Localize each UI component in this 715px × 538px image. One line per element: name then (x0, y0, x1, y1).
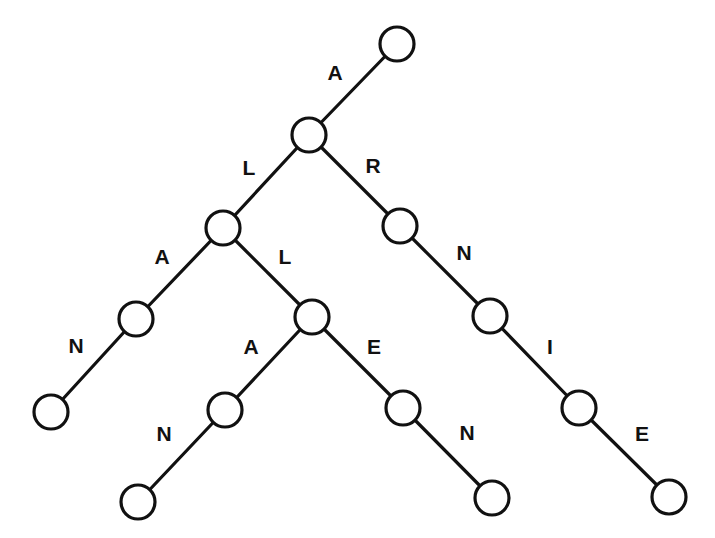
edge-label: A (154, 245, 169, 268)
edge-ALL-ALLE (312, 317, 403, 408)
edge-ALLA-ALLAN (138, 410, 225, 502)
trie-node-ALLEN (475, 481, 509, 515)
edge-ALL-ALLA (225, 317, 312, 410)
edge-label: N (156, 422, 171, 445)
edge-ALLE-ALLEN (403, 408, 492, 498)
edge-label: I (547, 335, 553, 358)
trie-node-A (292, 118, 326, 152)
label-layer: ALRALNNAEINNE (68, 61, 649, 445)
node-layer (34, 27, 686, 519)
edge-label: E (635, 422, 649, 445)
edge-A-AL (223, 135, 309, 228)
trie-node-ALL (295, 300, 329, 334)
trie-node-root (380, 27, 414, 61)
edge-label: L (279, 245, 292, 268)
edge-ARNI-ARNIE (579, 408, 669, 497)
edge-AL-ALA (136, 228, 223, 319)
trie-diagram: ALRALNNAEINNE (0, 0, 715, 538)
trie-node-AL (206, 211, 240, 245)
edge-A-AR (309, 135, 400, 226)
edge-label: N (459, 421, 474, 444)
edge-label: L (243, 156, 256, 179)
edge-ALA-ALAN (51, 319, 136, 412)
edge-layer (51, 44, 669, 502)
edge-label: N (456, 241, 471, 264)
trie-node-ARNI (562, 391, 596, 425)
edge-label: E (367, 335, 381, 358)
edge-label: A (327, 61, 342, 84)
edge-AL-ALL (223, 228, 312, 317)
trie-node-ALAN (34, 395, 68, 429)
edge-label: A (243, 335, 258, 358)
trie-node-ALLA (208, 393, 242, 427)
trie-node-ALLE (386, 391, 420, 425)
trie-node-ARN (473, 299, 507, 333)
edge-label: N (68, 334, 83, 357)
trie-node-ALA (119, 302, 153, 336)
trie-node-ARNIE (652, 480, 686, 514)
edge-label: R (365, 154, 380, 177)
trie-node-AR (383, 209, 417, 243)
edge-ARN-ARNI (490, 316, 579, 408)
trie-node-ALLAN (121, 485, 155, 519)
edge-AR-ARN (400, 226, 490, 316)
edge-root-A (309, 44, 397, 135)
